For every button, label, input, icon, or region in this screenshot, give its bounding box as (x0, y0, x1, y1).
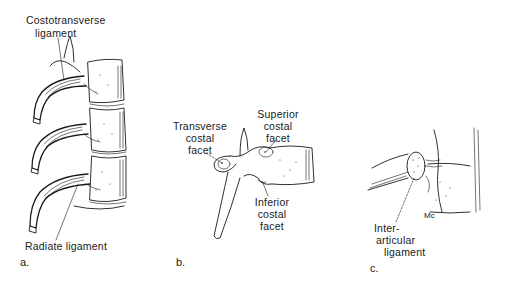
panel-letter-b: b. (176, 256, 185, 268)
label-inferior-costal-facet-line1: Inferior (244, 196, 300, 208)
label-costotransverse-ligament-line1: Costotransverse (26, 14, 105, 26)
label-transverse-costal-facet-line2: costal (170, 132, 230, 144)
label-costotransverse-ligament-line2: ligament (35, 27, 76, 39)
panel-letter-a: a. (20, 256, 29, 268)
label-transverse-costal-facet-line3: facet (170, 144, 230, 156)
panel-c-drawing (368, 128, 480, 222)
anatomy-figure: Costotransverse ligament Radiate ligamen… (0, 0, 506, 283)
label-superior-costal-facet-line3: facet (250, 132, 306, 144)
label-superior-costal-facet-line2: costal (250, 120, 306, 132)
label-mc-mark: Mc (424, 210, 435, 222)
label-inferior-costal-facet-line2: costal (244, 208, 300, 220)
label-interarticular-ligament-line3: ligament (384, 246, 425, 258)
label-superior-costal-facet-line1: Superior (250, 108, 306, 120)
label-transverse-costal-facet-line1: Transverse (170, 120, 230, 132)
label-interarticular-ligament-line1: Inter- (374, 222, 400, 234)
panel-a-drawing (29, 36, 126, 240)
label-radiate-ligament: Radiate ligament (25, 240, 107, 252)
label-interarticular-ligament-line2: articular (376, 234, 415, 246)
panel-letter-c: c. (370, 262, 379, 274)
label-inferior-costal-facet-line3: facet (244, 220, 300, 232)
